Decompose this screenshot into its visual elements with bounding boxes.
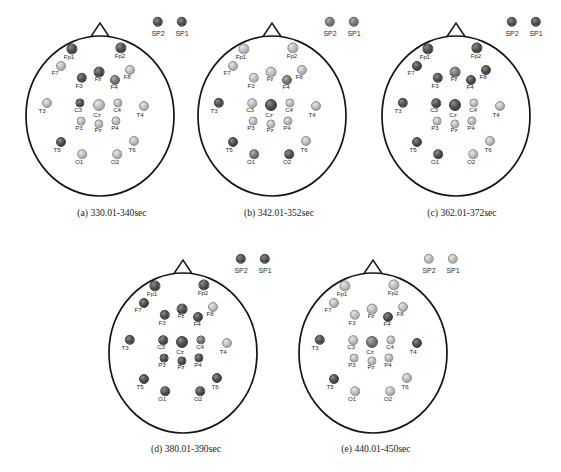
electrode-label-t6-d: T6: [211, 384, 218, 390]
electrode-label-o1-b: O1: [247, 159, 255, 165]
electrode-label-fp1-c: Fp1: [420, 54, 430, 60]
electrode-label-cz-e: Cz: [366, 349, 373, 355]
electrode-label-f7-e: F7: [324, 307, 331, 313]
electrode-cz-e: [366, 336, 378, 348]
electrode-label-cz-b: Cz: [265, 112, 272, 118]
electrode-label-f8-a: F8: [123, 74, 130, 80]
panel-caption-d: (d) 380.01-390sec: [151, 443, 221, 454]
head-diagram-e: Fp1Fp2F7FzF3F4F8T3C3CzC4T4P3PzP4T5T6O1O2…: [283, 243, 473, 439]
electrode-label-f3-d: F3: [158, 320, 165, 326]
electrode-label-p3-c: P3: [431, 125, 438, 131]
electrode-label-t5-b: T5: [225, 147, 232, 153]
sp-label-sp1-e: SP1: [446, 267, 459, 274]
electrode-label-o1-c: O1: [431, 159, 439, 165]
electrode-label-fp1-d: Fp1: [147, 291, 157, 297]
electrode-label-fp2-a: Fp2: [115, 53, 125, 59]
electrode-label-t4-d: T4: [219, 349, 226, 355]
electrode-label-f4-e: F4: [383, 321, 390, 327]
sp-label-sp2-c: SP2: [505, 30, 518, 37]
electrode-label-pz-c: Pz: [450, 127, 457, 133]
electrode-label-pz-a: Pz: [94, 127, 101, 133]
electrode-label-f8-b: F8: [295, 74, 302, 80]
head-map-panel-c: Fp1Fp2F7FzF3F4F8T3C3CzC4T4P3PzP4T5T6O1O2…: [368, 6, 558, 202]
electrode-label-c3-c: C3: [430, 107, 438, 113]
nose-marker: [364, 260, 382, 274]
electrode-label-f7-c: F7: [407, 70, 414, 76]
electrode-label-p4-b: P4: [283, 125, 290, 131]
electrode-label-t5-d: T5: [136, 384, 143, 390]
eeg-topographic-figure: Fp1Fp2F7FzF3F4F8T3C3CzC4T4P3PzP4T5T6O1O2…: [0, 0, 561, 472]
electrode-cz-c: [449, 99, 461, 111]
electrode-label-t6-a: T6: [128, 147, 135, 153]
electrode-label-f4-d: F4: [193, 321, 200, 327]
electrode-cz-b: [265, 99, 277, 111]
electrode-label-p4-e: P4: [384, 362, 391, 368]
electrode-label-o2-a: O2: [111, 159, 119, 165]
panel-caption-c: (c) 362.01-372sec: [427, 207, 496, 218]
electrode-label-t5-c: T5: [409, 147, 416, 153]
electrode-label-c3-a: C3: [74, 107, 82, 113]
electrode-label-p4-a: P4: [111, 125, 118, 131]
electrode-label-t4-a: T4: [136, 112, 143, 118]
head-diagram-a: Fp1Fp2F7FzF3F4F8T3C3CzC4T4P3PzP4T5T6O1O2…: [10, 6, 192, 202]
electrode-label-f8-c: F8: [479, 74, 486, 80]
electrode-label-t5-a: T5: [53, 147, 60, 153]
electrode-label-t3-a: T3: [38, 108, 45, 114]
electrode-label-fp2-d: Fp2: [198, 290, 208, 296]
electrode-label-c3-d: C3: [157, 344, 165, 350]
electrode-t4-b: [311, 101, 321, 111]
electrode-label-f7-b: F7: [223, 70, 230, 76]
electrode-label-f7-d: F7: [134, 307, 141, 313]
electrode-t4-a: [139, 101, 149, 111]
electrode-label-fp2-e: Fp2: [388, 290, 398, 296]
electrode-label-f4-a: F4: [110, 84, 117, 90]
electrode-label-fp1-a: Fp1: [64, 54, 74, 60]
electrode-label-fp1-e: Fp1: [337, 291, 347, 297]
electrode-label-f7-a: F7: [51, 70, 58, 76]
electrode-label-fz-d: Fz: [178, 313, 185, 319]
electrode-label-pz-e: Pz: [367, 364, 374, 370]
electrode-label-c3-e: C3: [347, 344, 355, 350]
sp-label-sp1-c: SP1: [529, 30, 542, 37]
electrode-t4-c: [495, 101, 505, 111]
electrode-label-o2-e: O2: [384, 396, 392, 402]
electrode-t6-d: [212, 373, 222, 383]
electrode-label-pz-d: Pz: [177, 364, 184, 370]
electrode-label-t4-b: T4: [308, 112, 315, 118]
sp-label-sp2-a: SP2: [151, 30, 164, 37]
head-map-panel-e: Fp1Fp2F7FzF3F4F8T3C3CzC4T4P3PzP4T5T6O1O2…: [283, 243, 473, 439]
electrode-label-f3-b: F3: [247, 83, 254, 89]
nose-marker: [263, 23, 281, 37]
electrode-label-c4-c: C4: [469, 107, 477, 113]
sp-label-sp2-d: SP2: [234, 267, 247, 274]
nose-marker: [91, 23, 109, 37]
head-map-panel-b: Fp1Fp2F7FzF3F4F8T3C3CzC4T4P3PzP4T5T6O1O2…: [180, 6, 370, 202]
electrode-label-f8-e: F8: [396, 311, 403, 317]
electrode-label-fz-b: Fz: [267, 76, 274, 82]
head-diagram-d: Fp1Fp2F7FzF3F4F8T3C3CzC4T4P3PzP4T5T6O1O2…: [93, 243, 283, 439]
electrode-label-cz-a: Cz: [93, 112, 100, 118]
electrode-label-fz-e: Fz: [368, 313, 375, 319]
electrode-label-p3-a: P3: [75, 125, 82, 131]
head-outline-d: [93, 243, 283, 439]
sp-label-sp2-e: SP2: [422, 267, 435, 274]
electrode-label-o1-d: O1: [158, 396, 166, 402]
electrode-label-pz-b: Pz: [266, 127, 273, 133]
electrode-label-o2-b: O2: [283, 159, 291, 165]
electrode-label-p3-e: P3: [348, 362, 355, 368]
electrode-label-cz-d: Cz: [176, 349, 183, 355]
head-map-panel-a: Fp1Fp2F7FzF3F4F8T3C3CzC4T4P3PzP4T5T6O1O2…: [10, 6, 192, 202]
electrode-cz-a: [93, 99, 105, 111]
panel-caption-b: (b) 342.01-352sec: [244, 207, 314, 218]
electrode-label-fp1-b: Fp1: [236, 54, 246, 60]
electrode-label-t6-c: T6: [484, 147, 491, 153]
head-map-panel-d: Fp1Fp2F7FzF3F4F8T3C3CzC4T4P3PzP4T5T6O1O2…: [93, 243, 283, 439]
electrode-label-o1-e: O1: [348, 396, 356, 402]
electrode-label-fz-c: Fz: [451, 76, 458, 82]
electrode-t4-d: [222, 338, 232, 348]
electrode-label-fp2-b: Fp2: [287, 53, 297, 59]
electrode-label-c4-e: C4: [386, 344, 394, 350]
panel-caption-a: (a) 330.01-340sec: [77, 207, 146, 218]
electrode-label-t3-d: T3: [121, 345, 128, 351]
electrode-label-t5-e: T5: [326, 384, 333, 390]
